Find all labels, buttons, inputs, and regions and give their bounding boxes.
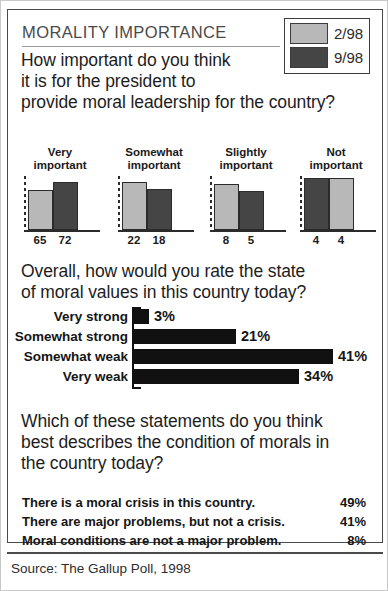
hbar-category-label: Somewhat weak — [24, 349, 128, 364]
source-divider — [7, 552, 383, 554]
bar-group-label-line: important — [292, 159, 380, 172]
chart-legend: 2/98 9/98 — [284, 18, 370, 74]
page-title: MORALITY IMPORTANCE — [22, 23, 227, 42]
bar-9-98 — [147, 189, 172, 230]
bar-value-label: 18 — [146, 234, 172, 246]
infographic-card: MORALITY IMPORTANCE 2/98 9/98 How import… — [7, 9, 383, 543]
question-3-text: Which of these statements do you think b… — [21, 411, 371, 474]
bar-group-label-line: Not — [292, 146, 380, 159]
bar-group-slightly-important: Slightlyimportant85 — [202, 146, 290, 254]
legend-item-9-98: 9/98 — [290, 47, 366, 69]
bar-group-plot — [16, 176, 104, 232]
baseline — [300, 230, 376, 232]
bar-value-label: 4 — [303, 234, 329, 246]
hbar-category-label: Somewhat strong — [15, 329, 128, 344]
statement-row: There are major problems, but not a cris… — [22, 514, 372, 533]
hbar-value-label: 21% — [241, 328, 270, 344]
hbar-category-label: Very strong — [54, 309, 128, 324]
bar-group-plot — [292, 176, 380, 232]
bar-group-not-important: Notimportant44 — [292, 146, 380, 254]
bar-group-label-line: important — [110, 159, 198, 172]
bar-value-label: 22 — [121, 234, 147, 246]
bar-2-98 — [122, 182, 147, 230]
axis-cap-bottom — [132, 387, 141, 389]
bar-group-very-important: Veryimportant6572 — [16, 146, 104, 254]
baseline — [118, 230, 194, 232]
bar-group-label-line: Very — [16, 146, 104, 159]
question-3-line-3: the country today? — [21, 453, 371, 474]
question-1-line-3: provide moral leadership for the country… — [21, 92, 373, 113]
hbar-row: Somewhat weak41% — [8, 348, 384, 367]
question-2-line-2: of moral values in this country today? — [21, 282, 371, 303]
horizontal-bar-chart: Very strong3%Somewhat strong21%Somewhat … — [8, 307, 384, 391]
bar-group-label: Somewhatimportant — [110, 146, 198, 171]
question-1-text: How important do you think it is for the… — [21, 50, 271, 92]
legend-item-2-98: 2/98 — [290, 23, 366, 45]
statement-row: Moral conditions are not a major problem… — [22, 533, 372, 552]
hbar-value-label: 34% — [304, 368, 333, 384]
grouped-bar-chart: Veryimportant6572Somewhatimportant2218Sl… — [8, 146, 384, 254]
hbar-row: Somewhat strong21% — [8, 328, 384, 347]
hbar-row: Very weak34% — [8, 368, 384, 387]
hbar-value-label: 41% — [338, 348, 367, 364]
baseline — [210, 230, 286, 232]
hbar-category-label: Very weak — [63, 369, 128, 384]
bar-group-label-line: important — [202, 159, 290, 172]
bar-9-98 — [239, 191, 264, 230]
infographic-root: MORALITY IMPORTANCE 2/98 9/98 How import… — [0, 0, 388, 591]
bar-group-plot — [202, 176, 290, 232]
bar-2-98 — [28, 190, 53, 230]
statement-text: There is a moral crisis in this country. — [22, 495, 255, 510]
question-2-text: Overall, how would you rate the state of… — [21, 261, 371, 303]
statement-text: There are major problems, but not a cris… — [22, 514, 285, 529]
bar-group-somewhat-important: Somewhatimportant2218 — [110, 146, 198, 254]
hbar — [134, 309, 149, 324]
bar-9-98 — [53, 182, 78, 230]
bar-group-label: Notimportant — [292, 146, 380, 171]
bar-2-98 — [329, 178, 354, 230]
hbar — [134, 369, 299, 384]
question-3-line-1: Which of these statements do you think — [21, 411, 371, 432]
question-2-line-1: Overall, how would you rate the state — [21, 261, 371, 282]
question-1-line-1: How important do you think — [21, 50, 271, 71]
bar-value-label: 65 — [27, 234, 53, 246]
bar-value-label: 5 — [238, 234, 264, 246]
bar-group-label-line: Somewhat — [110, 146, 198, 159]
statement-percent: 41% — [340, 514, 366, 529]
hbar — [134, 349, 333, 364]
hbar-row: Very strong3% — [8, 308, 384, 327]
bar-2-98 — [214, 184, 239, 230]
title-divider — [22, 46, 280, 47]
source-note: Source: The Gallup Poll, 1998 — [11, 561, 191, 576]
bar-value-label: 4 — [328, 234, 354, 246]
legend-swatch-light-icon — [290, 23, 328, 44]
tick-axis — [210, 176, 212, 232]
bar-value-label: 72 — [52, 234, 78, 246]
bar-value-labels: 44 — [292, 234, 380, 250]
bar-value-labels: 2218 — [110, 234, 198, 250]
baseline — [24, 230, 100, 232]
question-1-line-2: it is for the president to — [21, 71, 271, 92]
bar-value-label: 8 — [213, 234, 239, 246]
bar-group-plot — [110, 176, 198, 232]
statement-text: Moral conditions are not a major problem… — [22, 533, 281, 548]
hbar-value-label: 3% — [154, 308, 175, 324]
legend-swatch-dark-icon — [290, 47, 328, 68]
bar-group-label: Slightlyimportant — [202, 146, 290, 171]
statement-percent: 49% — [340, 495, 366, 510]
bar-9-98 — [304, 178, 329, 230]
bar-group-label-line: important — [16, 159, 104, 172]
tick-axis — [118, 176, 120, 232]
statement-percent: 8% — [347, 533, 366, 548]
legend-label-2-98: 2/98 — [334, 23, 363, 44]
bar-group-label: Veryimportant — [16, 146, 104, 171]
tick-axis — [24, 176, 26, 232]
bar-value-labels: 6572 — [16, 234, 104, 250]
legend-label-9-98: 9/98 — [334, 47, 363, 68]
question-3-line-2: best describes the condition of morals i… — [21, 432, 371, 453]
statement-row: There is a moral crisis in this country.… — [22, 495, 372, 514]
bar-value-labels: 85 — [202, 234, 290, 250]
bar-group-label-line: Slightly — [202, 146, 290, 159]
hbar — [134, 329, 236, 344]
tick-axis — [300, 176, 302, 232]
